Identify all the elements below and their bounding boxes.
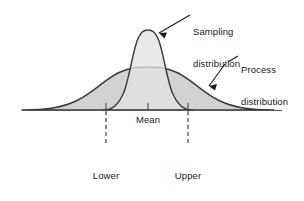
process-distribution-label: Process distribution: [241, 44, 288, 128]
process-distribution-label-line1: Process: [241, 65, 288, 76]
sampling-distribution-arrow: [159, 15, 190, 39]
control-chart-distribution-figure: Sampling distribution Process distributi…: [0, 0, 304, 201]
sampling-distribution-label-line2: distribution: [193, 59, 240, 70]
upper-control-limit-label-line1: Upper: [158, 171, 218, 182]
upper-control-limit-label: Upper control limit: [158, 150, 218, 201]
lower-control-limit-label-line1: Lower: [76, 171, 136, 182]
mean-label: Mean: [118, 115, 178, 126]
sampling-distribution-label: Sampling distribution: [193, 6, 240, 90]
process-distribution-label-line2: distribution: [241, 97, 288, 108]
sampling-distribution-label-line1: Sampling: [193, 27, 240, 38]
lower-control-limit-label: Lower control limit: [76, 150, 136, 201]
